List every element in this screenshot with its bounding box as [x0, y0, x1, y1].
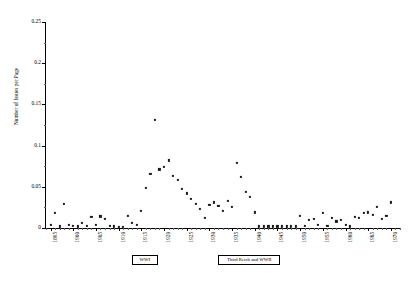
- x-axis-tick-label: 1965: [370, 232, 375, 242]
- data-point: [354, 216, 356, 218]
- data-point: [113, 225, 115, 227]
- x-axis-minor-tick: [273, 228, 274, 230]
- data-point: [177, 179, 179, 181]
- y-axis-minor-tick: [44, 84, 46, 85]
- x-axis-tick-label: 1970: [393, 232, 398, 242]
- data-point: [322, 212, 324, 214]
- x-axis-tick-label: 1910: [121, 232, 126, 242]
- data-point: [258, 225, 260, 227]
- x-axis-minor-tick: [87, 228, 88, 230]
- data-point: [367, 211, 369, 213]
- data-point: [290, 225, 292, 227]
- data-point: [90, 216, 92, 218]
- data-point: [136, 224, 138, 226]
- x-axis-minor-tick: [214, 228, 215, 230]
- x-axis-minor-tick: [241, 228, 242, 230]
- data-point: [245, 191, 247, 193]
- x-axis-tick-label: 1960: [348, 232, 353, 242]
- x-axis-minor-tick: [82, 228, 83, 230]
- data-point: [158, 168, 160, 170]
- y-axis-minor-tick: [44, 166, 46, 167]
- data-point: [104, 218, 106, 220]
- x-axis-minor-tick: [264, 228, 265, 230]
- x-axis-minor-tick: [296, 228, 297, 230]
- x-axis-minor-tick: [336, 228, 337, 230]
- x-axis-minor-tick: [309, 228, 310, 230]
- x-axis-minor-tick: [137, 228, 138, 230]
- x-axis-minor-tick: [191, 228, 192, 230]
- x-axis-minor-tick: [205, 228, 206, 230]
- data-point: [363, 212, 365, 214]
- x-axis-minor-tick: [382, 228, 383, 230]
- x-axis-minor-tick: [314, 228, 315, 230]
- data-point: [376, 205, 378, 207]
- data-point: [299, 215, 301, 217]
- x-axis-minor-tick: [155, 228, 156, 230]
- data-point: [54, 212, 56, 214]
- data-point: [199, 208, 201, 210]
- x-axis-tick-label: 1945: [279, 232, 284, 242]
- data-point: [308, 219, 310, 221]
- data-point: [340, 219, 342, 221]
- data-point: [122, 226, 124, 228]
- data-point: [81, 222, 83, 224]
- x-axis-tick: [368, 228, 369, 231]
- data-point: [285, 225, 287, 227]
- x-axis-tick: [119, 228, 120, 231]
- data-point: [326, 224, 328, 226]
- y-axis-minor-tick: [44, 207, 46, 208]
- x-axis-tick-label: 1950: [302, 232, 307, 242]
- data-point: [95, 224, 97, 226]
- data-point: [154, 119, 156, 121]
- x-axis-tick: [96, 228, 97, 231]
- x-axis-minor-tick: [305, 228, 306, 230]
- x-axis-minor-tick: [100, 228, 101, 230]
- data-point: [317, 224, 319, 226]
- x-axis-tick-label: 1895: [53, 232, 58, 242]
- data-point: [313, 218, 315, 220]
- data-point: [226, 200, 228, 202]
- x-axis-tick-label: 1920: [166, 232, 171, 242]
- data-point: [59, 225, 61, 227]
- data-point: [217, 205, 219, 207]
- scatter-chart-figure: Number of Issues per Page 00.050.10.150.…: [0, 0, 420, 286]
- x-axis-minor-tick: [250, 228, 251, 230]
- data-point: [249, 196, 251, 198]
- data-point: [358, 217, 360, 219]
- x-axis-tick: [255, 228, 256, 231]
- x-axis-tick-label: 1905: [98, 232, 103, 242]
- y-axis-minor-tick: [44, 43, 46, 44]
- y-axis-tick-label: 0.2: [34, 60, 41, 65]
- data-point: [204, 217, 206, 219]
- x-axis-tick: [141, 228, 142, 231]
- x-axis-tick: [391, 228, 392, 231]
- y-axis-minor-tick: [44, 125, 46, 126]
- x-axis-tick-label: 1930: [211, 232, 216, 242]
- y-axis-title: Number of Issues per Page: [14, 68, 19, 125]
- data-point: [172, 175, 174, 177]
- y-axis-tick: [42, 146, 46, 147]
- data-point: [231, 205, 233, 207]
- data-point: [186, 192, 188, 194]
- x-axis-tick: [323, 228, 324, 231]
- x-axis-minor-tick: [364, 228, 365, 230]
- data-point: [222, 210, 224, 212]
- x-axis-tick-label: 1940: [257, 232, 262, 242]
- x-axis-minor-tick: [377, 228, 378, 230]
- x-axis-tick: [164, 228, 165, 231]
- x-axis-minor-tick: [246, 228, 247, 230]
- x-axis-minor-tick: [282, 228, 283, 230]
- y-axis-tick-label: 0.1: [34, 143, 41, 148]
- x-axis-minor-tick: [128, 228, 129, 230]
- data-point: [213, 201, 215, 203]
- x-axis-tick-label: 1915: [143, 232, 148, 242]
- annotation-box: WWI: [132, 255, 158, 265]
- x-axis-minor-tick: [291, 228, 292, 230]
- x-axis-minor-tick: [110, 228, 111, 230]
- data-point: [304, 224, 306, 226]
- y-axis-tick-label: 0: [38, 225, 41, 230]
- x-axis-tick-label: 1955: [325, 232, 330, 242]
- data-point: [349, 225, 351, 227]
- data-point: [181, 188, 183, 190]
- data-point: [281, 225, 283, 227]
